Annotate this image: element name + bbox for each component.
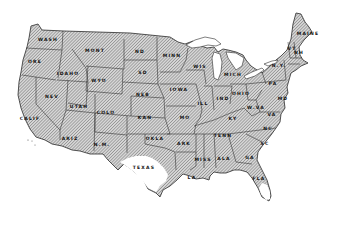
state-label-colo: COLO [97, 110, 115, 115]
state-label-neb: NEB [136, 92, 150, 97]
state-label-calif: CALIF [20, 116, 40, 121]
state-label-wis: WIS [193, 64, 206, 69]
state-label-la: LA [188, 175, 197, 180]
state-label-utah: UTAH [70, 104, 88, 109]
state-label-ill: ILL [197, 101, 208, 106]
state-label-ariz: ARIZ [62, 136, 79, 141]
state-label-wash: WASH [38, 37, 58, 42]
state-label-miss: MISS [194, 157, 211, 162]
state-label-nev: NEV [45, 94, 59, 99]
state-label-nm: N.M. [94, 142, 110, 147]
state-label-sd: SD [138, 70, 147, 75]
state-label-ala: ALA [217, 156, 230, 161]
state-label-texas: TEXAS [133, 165, 155, 170]
state-label-kan: KAN [138, 115, 152, 120]
state-label-mich: MICH [224, 72, 242, 77]
state-label-sc: SC [261, 141, 270, 146]
state-label-va: VA [267, 112, 276, 117]
state-label-wva: W.VA [247, 105, 265, 110]
state-label-ark: ARK [177, 141, 191, 146]
state-label-tenn: TENN [214, 133, 232, 138]
state-label-nd: ND [135, 49, 145, 54]
state-label-idaho: IDAHO [57, 71, 79, 76]
state-label-okla: OKLA [146, 136, 164, 141]
state-label-ore: ORE [28, 59, 42, 64]
state-label-ga: GA [245, 155, 255, 160]
state-label-md: MD [278, 96, 289, 101]
state-label-ohio: OHIO [232, 91, 250, 96]
channel-islands [27, 139, 35, 145]
state-label-nc: NC [263, 126, 272, 131]
state-label-ky: KY [228, 116, 237, 121]
state-label-iowa: IOWA [170, 87, 189, 92]
lake-superior [186, 37, 221, 48]
state-label-maine: MAINE [297, 31, 319, 36]
state-label-ind: IND [217, 96, 230, 101]
state-label-ny: N.Y. [272, 63, 287, 68]
state-label-nh: NH [294, 50, 304, 55]
state-label-mont: MONT [85, 48, 105, 53]
state-label-fla: FLA [252, 176, 265, 181]
state-label-pa: PA [269, 81, 278, 86]
state-label-minn: MINN [163, 53, 182, 58]
us-map [0, 0, 339, 231]
state-label-wyo: WYO [91, 78, 107, 83]
state-label-mo: MO [180, 115, 191, 120]
